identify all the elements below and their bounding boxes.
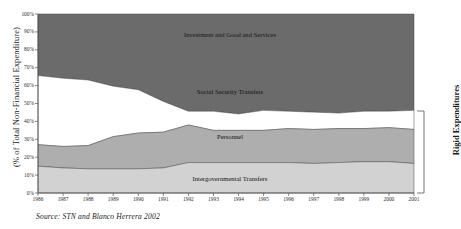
series-label-social-security: Social Security Transfers — [197, 88, 263, 95]
source-note: Source: STN and Blanco Herrera 2002 — [36, 212, 160, 221]
series-label-intergovernmental: Intergovernmental Transfers — [193, 175, 268, 182]
series-label-personnel: Personnel — [217, 133, 243, 140]
rigid-expenditures-label: Rigid Expenditures — [451, 45, 461, 195]
chart-figure: (% of Total Non-Financial Expenditure) 1… — [0, 0, 461, 229]
x-tick-2001: 2001 — [399, 196, 429, 202]
series-label-investment: Investment and Good and Services — [184, 31, 276, 38]
